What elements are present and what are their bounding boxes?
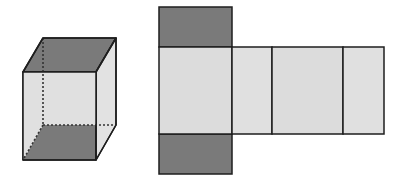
prism-front-lighter: [23, 72, 96, 125]
prism-and-net-diagram: [0, 0, 406, 178]
net-right-face: [232, 47, 272, 134]
net-back-face: [272, 47, 343, 134]
net-bottom-face: [159, 134, 232, 174]
prism-net: [159, 7, 384, 174]
net-left-face: [343, 47, 384, 134]
rectangular-prism: [23, 38, 116, 160]
net-top-face: [159, 7, 232, 47]
net-front-face: [159, 47, 232, 134]
